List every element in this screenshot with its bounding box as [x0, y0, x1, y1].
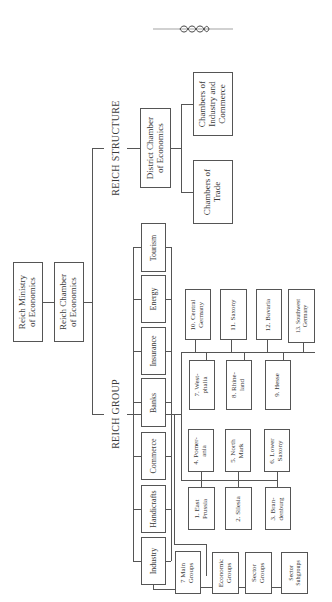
connector [303, 343, 304, 352]
connector [174, 544, 207, 545]
connector [133, 509, 141, 510]
decorative-ornament [153, 21, 233, 33]
connector [92, 414, 104, 415]
connector [201, 480, 202, 487]
chambers-industry-commerce-box: Chambers of Industry and Commerce [193, 72, 233, 136]
connector [181, 480, 278, 481]
region-6-box: 6. Lower Saxony [264, 429, 290, 472]
region-9-box: 9. Hesse [265, 360, 291, 410]
region-bus [181, 352, 182, 480]
connector [174, 414, 175, 544]
connector [206, 352, 207, 360]
sector-label: Banks [149, 393, 158, 413]
region-label: 1. East Prussia [194, 498, 209, 518]
region-2-box: 2. Silesia [225, 487, 252, 530]
region-label: 7. West- phalia [194, 373, 209, 396]
region-label: 4. Pomer- ania [193, 437, 208, 464]
sector-handicrafts-box: Handicrafts [141, 485, 166, 533]
connector [181, 104, 193, 105]
economic-groups-box: Economic Groups [212, 552, 239, 594]
region-3-box: 3. Bran- denburg [265, 487, 291, 530]
region-1-box: 1. East Prussia [188, 487, 215, 530]
connector [133, 402, 141, 403]
region-7-box: 7. West- phalia [189, 360, 215, 410]
region-label: 3. Bran- denburg [270, 497, 285, 520]
region-label: 6. Lower Saxony [269, 438, 284, 463]
sector-label: Commerce [149, 438, 158, 473]
connector [181, 352, 315, 353]
sector-groups-box: Sector Groups [245, 552, 272, 594]
region-label: 12. Bavaria [265, 298, 273, 330]
region-5-box: 5. North Mark [225, 429, 251, 472]
connector [272, 587, 281, 588]
reich-structure-heading: REICH STRUCTURE [110, 100, 121, 195]
connector [277, 472, 278, 480]
connector [92, 148, 104, 149]
reich-group-heading: REICH GROUP [110, 379, 121, 449]
chain-label: Sector Subgroups [288, 560, 301, 586]
connector [231, 340, 232, 352]
connector [133, 247, 141, 248]
district-chamber-box: District Chamber of Economics [140, 108, 171, 188]
chain-label: Economic Groups [218, 559, 233, 587]
connector [238, 472, 239, 480]
connector [166, 561, 171, 562]
connector [133, 351, 141, 352]
region-label: 2. Silesia [235, 496, 243, 522]
chambers-trade-label: Chambers of Trade [203, 169, 223, 215]
connector [201, 472, 202, 480]
region-label: 9. Hesse [274, 373, 282, 397]
connector [127, 148, 140, 149]
connector [181, 104, 182, 193]
region-label: 13. Southwest Germany [295, 299, 308, 333]
region-10-box: 10. Central Germany [185, 289, 211, 340]
sector-label: Tourism [149, 234, 158, 261]
connector [166, 509, 171, 510]
connector [166, 402, 171, 403]
reich-ministry-label: Reich Ministry of Economics [18, 275, 38, 329]
chain-label: 7 Main Groups [180, 562, 195, 583]
region-8-box: 8. Rhine- land [226, 360, 252, 410]
connector [133, 456, 141, 457]
sector-label: Energy [149, 288, 158, 311]
chain-label: Sector Groups [251, 563, 266, 584]
connector [133, 299, 141, 300]
connector [166, 351, 171, 352]
chambers-industry-commerce-label: Chambers of Industry and Commerce [198, 81, 228, 127]
region-4-box: 4. Pomer- ania [188, 429, 214, 472]
sector-industry-box: Industry [141, 537, 166, 585]
connector [133, 561, 141, 562]
region-label: 11. Saxony [230, 299, 238, 330]
chambers-trade-box: Chambers of Trade [193, 160, 233, 224]
connector [201, 587, 212, 588]
region-13-box: 13. Southwest Germany [288, 289, 315, 343]
sector-bus-left [133, 247, 134, 561]
connector [43, 302, 54, 303]
connector [238, 480, 239, 487]
trunk-line [92, 148, 93, 415]
connector [195, 340, 196, 352]
region-12-box: 12. Bavaria [256, 289, 282, 340]
sector-commerce-box: Commerce [141, 432, 166, 480]
main-groups-box: 7 Main Groups [175, 551, 201, 594]
connector [166, 299, 171, 300]
sector-label: Industry [149, 548, 158, 575]
sector-insurance-box: Insurance [141, 327, 166, 375]
district-chamber-label: District Chamber of Economics [146, 117, 166, 179]
sector-tourism-box: Tourism [141, 223, 166, 272]
sector-energy-box: Energy [141, 275, 166, 323]
connector [267, 340, 268, 352]
reich-chamber-label: Reich Chamber of Economics [59, 274, 79, 330]
connector [166, 247, 171, 248]
reich-chamber-box: Reich Chamber of Economics [54, 262, 84, 342]
region-11-box: 11. Saxony [220, 289, 247, 340]
connector [206, 544, 207, 576]
sector-label: Handicrafts [149, 490, 158, 527]
connector [277, 480, 278, 487]
connector [166, 456, 171, 457]
sector-banks-box: Banks [141, 378, 166, 427]
sector-label: Insurance [149, 335, 158, 366]
connector [181, 192, 193, 193]
knot-ornament-icon [153, 23, 233, 35]
sector-bus-right [171, 247, 172, 561]
